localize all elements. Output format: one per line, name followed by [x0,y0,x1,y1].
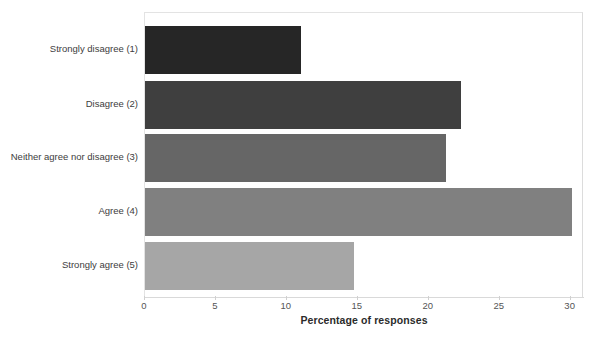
bar-agree [145,188,572,236]
bar-chart: Strongly disagree (1) Disagree (2) Neith… [0,0,606,339]
x-axis-tick-5: 5 [212,300,217,311]
x-axis-tick-10: 10 [281,300,292,311]
x-axis-tickmark [357,296,358,300]
x-axis-tickmark [428,296,429,300]
y-axis-category-labels: Strongly disagree (1) Disagree (2) Neith… [0,12,138,298]
plot-area [144,12,583,298]
x-axis-tickmark [215,296,216,300]
x-axis-line [144,297,584,298]
x-axis-tick-labels: 051015202530 [144,300,584,314]
y-axis-label-strongly-disagree: Strongly disagree (1) [0,43,138,55]
x-axis-tickmark [570,296,571,300]
x-axis-tick-30: 30 [564,300,575,311]
bar-neither-agree-nor-disagree [145,134,446,182]
x-axis-title: Percentage of responses [144,314,584,326]
y-axis-label-strongly-agree: Strongly agree (5) [0,259,138,271]
y-axis-label-disagree: Disagree (2) [0,98,138,110]
bar-disagree [145,81,461,129]
bar-strongly-agree [145,242,354,290]
x-axis-tick-0: 0 [141,300,146,311]
x-axis-tick-15: 15 [352,300,363,311]
bar-strongly-disagree [145,26,301,74]
x-axis-tick-20: 20 [422,300,433,311]
x-axis-tickmark [286,296,287,300]
x-axis-tick-25: 25 [493,300,504,311]
y-axis-label-agree: Agree (4) [0,205,138,217]
x-axis-tickmark [144,296,145,300]
chart-title [0,0,606,2]
y-axis-label-neither: Neither agree nor disagree (3) [0,151,138,163]
x-axis-tickmark [499,296,500,300]
